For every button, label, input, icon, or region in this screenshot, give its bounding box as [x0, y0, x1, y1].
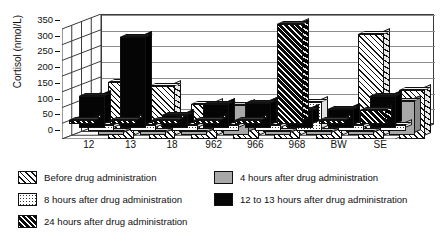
x-axis-tick-label: SE	[358, 139, 402, 150]
y-axis-tick-mark	[55, 67, 60, 68]
y-axis-tick-label: 0	[19, 125, 53, 134]
legend-label: 8 hours after drug administration	[44, 192, 182, 207]
y-axis-tick-mark	[55, 83, 60, 84]
chart-legend: Before drug administration4 hours after …	[0, 168, 447, 246]
x-axis-tick-label: 12	[67, 139, 111, 150]
legend-label: 24 hours after drug administration	[44, 214, 187, 229]
bar-front-face	[194, 120, 220, 124]
bar-front-face	[319, 120, 345, 124]
bars-layer	[62, 14, 434, 139]
dotted-swatch	[18, 193, 37, 206]
solid-black-swatch	[214, 193, 233, 206]
bar-13-h12	[120, 37, 146, 128]
bar-962-h24	[194, 120, 220, 124]
y-axis-tick-label: 50	[19, 109, 53, 118]
y-axis-tick-label: 300	[19, 31, 53, 40]
y-axis-tick-mark	[55, 36, 60, 37]
bar-BW-h24	[319, 120, 345, 124]
y-axis-tick-label: 350	[19, 15, 53, 24]
x-axis-tick-label: 13	[108, 139, 152, 150]
x-axis-tick-label: 18	[150, 139, 194, 150]
y-axis-tick-label: 100	[19, 94, 53, 103]
legend-label: Before drug administration	[44, 170, 157, 185]
bar-968-h24	[277, 24, 303, 124]
bar-SE-h24	[360, 110, 386, 124]
bar-front-face	[69, 120, 95, 124]
plot-3d-box	[62, 14, 434, 139]
bar-front-face	[120, 37, 146, 128]
x-axis-tick-label: 966	[233, 139, 277, 150]
bar-13-h24	[110, 120, 136, 124]
y-axis-tick-mark	[55, 130, 60, 131]
bar-12-h24	[69, 120, 95, 124]
bar-side-face	[302, 18, 309, 121]
bar-front-face	[110, 120, 136, 124]
y-axis-tick-label: 250	[19, 46, 53, 55]
bar-side-face	[424, 84, 431, 136]
diagonal-hatch-light-swatch	[18, 171, 37, 184]
bar-front-face	[360, 110, 386, 124]
y-axis-tick-label: 200	[19, 62, 53, 71]
bar-front-face	[235, 120, 261, 124]
y-axis-tick-mark	[55, 51, 60, 52]
y-axis-tick-labels: 350300250200150100500	[24, 20, 60, 124]
y-axis-tick-label: 150	[19, 78, 53, 87]
legend-label: 12 to 13 hours after drug administration	[240, 192, 407, 207]
bar-front-face	[277, 24, 303, 124]
x-axis-tick-labels: 121318962966968BWSE	[62, 139, 434, 157]
x-axis-tick-label: BW	[317, 139, 361, 150]
x-axis-tick-label: 968	[275, 139, 319, 150]
bar-front-face	[152, 120, 178, 124]
y-axis-tick-mark	[55, 114, 60, 115]
bar-chart-figure: Cortisol (nmol/L) 350300250200150100500	[0, 0, 447, 246]
solid-gray-swatch	[214, 171, 233, 184]
legend-label: 4 hours after drug administration	[240, 170, 378, 185]
y-axis-tick-mark	[55, 99, 60, 100]
diagonal-hatch-dark-swatch	[18, 215, 37, 228]
y-axis-tick-mark	[55, 20, 60, 21]
bar-966-h24	[235, 120, 261, 124]
bar-side-face	[145, 31, 152, 124]
chart-plot-area: Cortisol (nmol/L) 350300250200150100500	[0, 0, 447, 163]
bar-18-h24	[152, 120, 178, 124]
x-axis-tick-label: 962	[192, 139, 236, 150]
